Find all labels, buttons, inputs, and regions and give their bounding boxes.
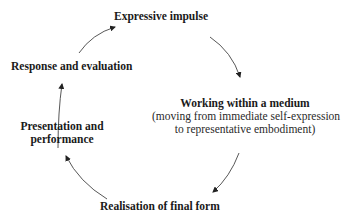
node-sublabel-line1: (moving from immediate self-expression — [152, 110, 338, 123]
node-label: Realisation of final form — [100, 200, 220, 212]
arrow-response-to-expressive — [79, 27, 115, 53]
arrow-expressive-to-working — [210, 37, 240, 77]
node-label: Response and evaluation — [11, 60, 132, 72]
node-working-within-medium: Working within a medium (moving from imm… — [152, 97, 338, 136]
node-realisation-of-final-form: Realisation of final form — [100, 200, 220, 213]
arrow-working-to-realisation — [213, 153, 239, 192]
node-sublabel-line2: to representative embodiment) — [152, 123, 338, 136]
node-label-line2: performance — [18, 133, 106, 146]
node-label-line1: Presentation and — [18, 120, 106, 133]
arrow-realisation-to-presentation — [66, 156, 107, 199]
node-presentation-and-performance: Presentation and performance — [18, 120, 106, 146]
node-response-and-evaluation: Response and evaluation — [11, 60, 132, 73]
node-label: Expressive impulse — [114, 10, 208, 22]
node-label: Working within a medium — [152, 97, 338, 110]
node-expressive-impulse: Expressive impulse — [114, 10, 208, 23]
